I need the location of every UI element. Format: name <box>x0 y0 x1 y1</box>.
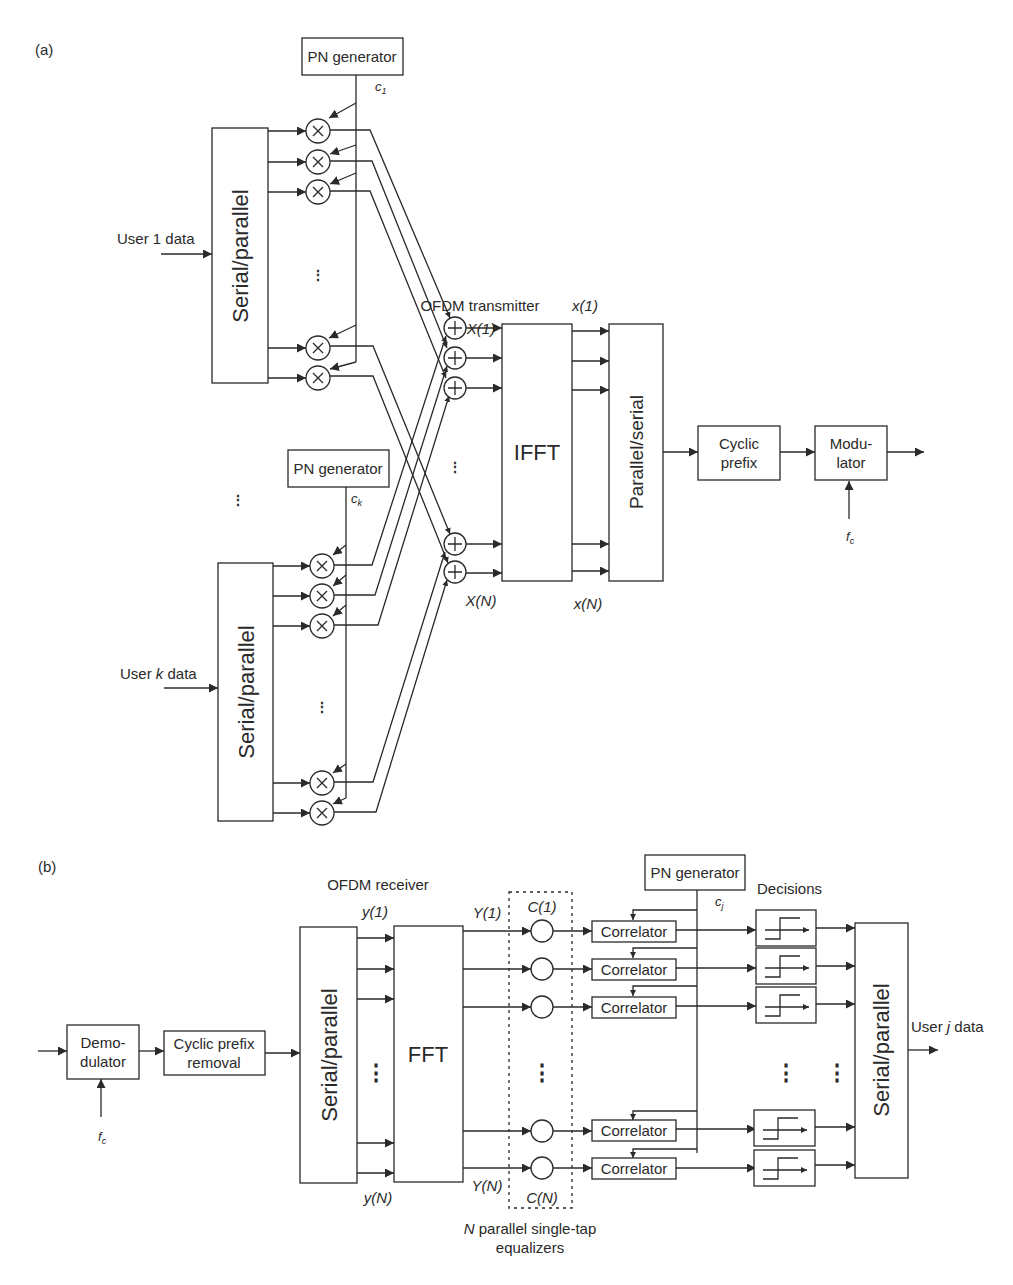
decision-devices <box>754 910 855 1186</box>
rx-time-label-last: y(N) <box>363 1189 392 1206</box>
userk-input-label: User k data <box>120 665 197 682</box>
sp-block-user1-label: Serial/parallel <box>228 189 253 322</box>
carrier-label-rx: fc <box>98 1129 107 1146</box>
output-label: User j data <box>911 1018 984 1035</box>
equalizer-icon <box>531 996 553 1018</box>
ellipsis-icon: ⋮ <box>531 1060 553 1085</box>
fft-block-label: FFT <box>408 1042 448 1067</box>
eq-caption-line1: N parallel single-tap <box>464 1220 597 1237</box>
ellipsis-icon: ⋮ <box>311 267 325 283</box>
pn-generator-userk-label: PN generator <box>293 460 382 477</box>
modulator-label-2: lator <box>836 454 865 471</box>
sp-block-rx-output-label: Serial/parallel <box>869 983 894 1116</box>
cp-removal-label-2: removal <box>187 1054 240 1071</box>
demodulator-label-2: dulator <box>80 1053 126 1070</box>
equalizer-icon <box>531 920 553 942</box>
correlator-label: Correlator <box>601 1160 668 1177</box>
ellipsis-icon: ⋮ <box>775 1060 797 1085</box>
rx-freq-label-first: Y(1) <box>473 904 501 921</box>
rx-freq-label-last: Y(N) <box>472 1177 503 1194</box>
code-c1: c1 <box>375 79 387 96</box>
ellipsis-icon: ⋮ <box>365 1060 387 1085</box>
section-title-tx: OFDM transmitter <box>420 297 539 314</box>
userk-branch: PN generator ck User k data Serial/paral… <box>120 336 449 825</box>
correlator-label: Correlator <box>601 999 668 1016</box>
modulator-label-1: Modu- <box>830 435 873 452</box>
ellipsis-icon: ⋮ <box>448 459 462 475</box>
routing-user1 <box>330 130 450 563</box>
equalizer-icon <box>531 1157 553 1179</box>
cp-removal-label-1: Cyclic prefix <box>174 1035 255 1052</box>
ofdm-cdma-diagram: (a) PN generator c1 User 1 data Serial/p… <box>0 0 1013 1285</box>
code-cj: cj <box>715 894 725 911</box>
ellipsis-users-icon: ⋮ <box>231 492 245 508</box>
routing-userk <box>334 336 449 812</box>
ellipsis-icon: ⋮ <box>826 1060 848 1085</box>
rx-time-label-first: y(1) <box>361 903 388 920</box>
equalizer-icon <box>531 958 553 980</box>
time-label-first: x(1) <box>571 297 598 314</box>
multipliers-userk: ⋮ <box>273 545 346 825</box>
carrier-label-tx: fc <box>846 529 855 546</box>
eq-label-first: C(1) <box>527 898 556 915</box>
user1-input-label: User 1 data <box>117 230 195 247</box>
decision-device <box>754 1110 815 1146</box>
ellipsis-icon: ⋮ <box>315 699 329 715</box>
eq-label-last: C(N) <box>526 1189 558 1206</box>
pn-generator-rx-label: PN generator <box>650 864 739 881</box>
correlator-label: Correlator <box>601 961 668 978</box>
correlators: Correlator Correlator Correlator Correla… <box>592 921 756 1179</box>
sp-block-userk-label: Serial/parallel <box>234 625 259 758</box>
panel-b-label: (b) <box>38 858 56 875</box>
decision-device <box>756 948 816 984</box>
sp-block-rx-label: Serial/parallel <box>317 988 342 1121</box>
correlator-label: Correlator <box>601 1122 668 1139</box>
equalizers <box>463 920 592 1179</box>
panel-a-label: (a) <box>35 41 53 58</box>
panel-a: (a) PN generator c1 User 1 data Serial/p… <box>35 38 924 825</box>
section-title-rx: OFDM receiver <box>327 876 429 893</box>
decision-device <box>756 910 816 946</box>
eq-caption-line2: equalizers <box>496 1239 564 1256</box>
ps-block-label: Parallel/serial <box>626 395 647 509</box>
equalizer-icon <box>531 1120 553 1142</box>
demodulator-label-1: Demo- <box>80 1034 125 1051</box>
cyclic-prefix-label-1: Cyclic <box>719 435 759 452</box>
multipliers-user1: ⋮ <box>268 103 356 390</box>
time-label-last: x(N) <box>573 595 602 612</box>
decision-device <box>756 987 816 1023</box>
ifft-outputs <box>572 331 609 571</box>
pn-generator-user1-label: PN generator <box>307 48 396 65</box>
sp-to-fft-arrows <box>357 938 394 1173</box>
ifft-block-label: IFFT <box>514 440 560 465</box>
decision-device <box>754 1150 815 1186</box>
cyclic-prefix-label-2: prefix <box>721 454 758 471</box>
panel-b: (b) OFDM receiver Demo- dulator fc Cycli… <box>38 855 984 1256</box>
user1-branch: PN generator c1 User 1 data Serial/paral… <box>117 38 450 563</box>
code-ck: ck <box>351 491 363 508</box>
decisions-title: Decisions <box>757 880 822 897</box>
correlator-label: Correlator <box>601 923 668 940</box>
freq-label-last: X(N) <box>465 592 497 609</box>
